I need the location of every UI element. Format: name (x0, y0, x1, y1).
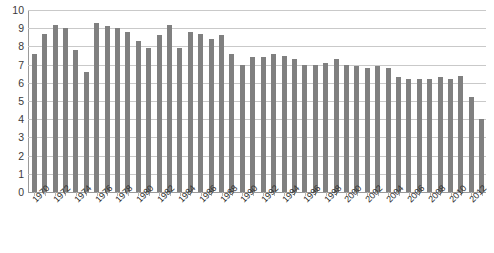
y-axis-tick-label: 9 (18, 23, 24, 34)
bar (417, 79, 422, 192)
bar (105, 26, 110, 192)
bar (458, 76, 463, 192)
bar (240, 65, 245, 192)
bar (136, 41, 141, 192)
bar (209, 39, 214, 192)
bar-series (28, 10, 486, 192)
bar (42, 34, 47, 192)
bar (188, 32, 193, 192)
bar (354, 66, 359, 192)
y-axis-tick-label: 6 (18, 78, 24, 89)
bar (406, 79, 411, 192)
bar (32, 54, 37, 192)
bar (469, 97, 474, 192)
bar (53, 25, 58, 192)
bar (375, 66, 380, 192)
bar (323, 63, 328, 192)
bar (365, 68, 370, 192)
bar (157, 35, 162, 192)
y-axis-tick-label: 1 (18, 169, 24, 180)
bar (334, 59, 339, 192)
bar (167, 25, 172, 192)
bar (229, 54, 234, 192)
bar (292, 59, 297, 192)
bar (344, 65, 349, 192)
bar (115, 28, 120, 192)
clipped-caption-artifact (24, 244, 114, 250)
bar (271, 54, 276, 192)
bar (448, 79, 453, 192)
y-axis-tick-label: 10 (12, 5, 24, 16)
plot-area (28, 10, 486, 192)
bar (125, 32, 130, 192)
y-axis-tick-label: 3 (18, 132, 24, 143)
bar (479, 119, 484, 192)
bar (427, 79, 432, 192)
bar (177, 48, 182, 192)
bar (438, 77, 443, 192)
y-axis-tick-label: 2 (18, 150, 24, 161)
bar (261, 57, 266, 192)
y-axis-tick-label: 5 (18, 96, 24, 107)
bar (386, 68, 391, 192)
bar-chart: 012345678910 197019721974197619781980198… (0, 0, 494, 253)
bar (94, 23, 99, 192)
y-axis-tick-label: 8 (18, 41, 24, 52)
bar (219, 35, 224, 192)
bar (313, 65, 318, 192)
bar (302, 65, 307, 192)
bar (396, 77, 401, 192)
bar (282, 56, 287, 193)
bar (73, 50, 78, 192)
bar (250, 57, 255, 192)
bar (63, 28, 68, 192)
y-axis-tick-label: 4 (18, 114, 24, 125)
bar (146, 48, 151, 192)
y-axis-tick-label: 7 (18, 59, 24, 70)
bar (198, 34, 203, 192)
bar (84, 72, 89, 192)
